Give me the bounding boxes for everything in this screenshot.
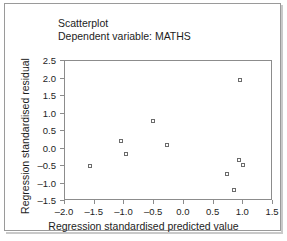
x-axis-tick-label: –2.0 bbox=[55, 206, 74, 217]
figure-shadow-right bbox=[281, 5, 283, 234]
data-point bbox=[238, 78, 242, 82]
y-axis-tick bbox=[60, 165, 64, 166]
chart-subtitle: Dependent variable: MATHS bbox=[58, 30, 191, 43]
y-axis-tick bbox=[60, 95, 64, 96]
y-axis-tick bbox=[60, 148, 64, 149]
y-axis-tick bbox=[60, 200, 64, 201]
x-axis-tick bbox=[153, 200, 154, 204]
scatterplot-screenshot: Scatterplot Dependent variable: MATHS –2… bbox=[0, 0, 287, 241]
chart-title: Scatterplot bbox=[58, 17, 191, 30]
x-axis-tick bbox=[213, 200, 214, 204]
data-point bbox=[151, 119, 155, 123]
data-point bbox=[225, 172, 229, 176]
x-axis-tick bbox=[183, 200, 184, 204]
data-point bbox=[119, 139, 123, 143]
chart-title-block: Scatterplot Dependent variable: MATHS bbox=[58, 17, 191, 43]
x-axis-tick-label: 1.0 bbox=[236, 206, 249, 217]
x-axis-tick bbox=[272, 200, 273, 204]
data-point bbox=[165, 143, 169, 147]
data-point bbox=[232, 188, 236, 192]
x-axis-label: Regression standardised predicted value bbox=[0, 220, 287, 232]
data-points-layer bbox=[65, 61, 271, 199]
data-point bbox=[124, 152, 128, 156]
y-axis-tick bbox=[60, 130, 64, 131]
data-point bbox=[241, 163, 245, 167]
x-axis-tick-label: 0.0 bbox=[176, 206, 189, 217]
x-axis-tick-label: –0.5 bbox=[144, 206, 163, 217]
x-axis-tick-label: 0.5 bbox=[206, 206, 219, 217]
data-point bbox=[237, 158, 241, 162]
y-axis-label: Regression standardised residual bbox=[19, 56, 31, 216]
x-axis-tick bbox=[242, 200, 243, 204]
x-axis-tick bbox=[123, 200, 124, 204]
plot-area bbox=[64, 60, 272, 200]
y-axis-tick bbox=[60, 60, 64, 61]
data-point bbox=[88, 164, 92, 168]
x-axis-tick-label: –1.0 bbox=[114, 206, 133, 217]
x-axis-tick-label: 1.5 bbox=[265, 206, 278, 217]
y-axis-tick bbox=[60, 113, 64, 114]
x-axis-tick bbox=[64, 200, 65, 204]
y-axis-tick bbox=[60, 183, 64, 184]
x-axis-tick bbox=[94, 200, 95, 204]
figure-shadow-bottom bbox=[6, 232, 283, 234]
x-axis-tick-label: –1.5 bbox=[84, 206, 103, 217]
y-axis-tick bbox=[60, 78, 64, 79]
